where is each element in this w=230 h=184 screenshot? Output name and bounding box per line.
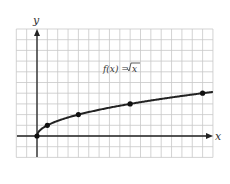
y-axis-label: y xyxy=(32,14,40,27)
data-point xyxy=(45,123,50,128)
data-point xyxy=(200,91,205,96)
data-point xyxy=(128,101,133,106)
sqrt-curve xyxy=(37,92,213,136)
function-radicand: x xyxy=(132,64,137,74)
function-label: f(x) = x xyxy=(102,63,140,74)
x-axis-label: x xyxy=(215,130,222,143)
function-graph: x y f(x) = x xyxy=(0,0,230,184)
function-name: f(x) = xyxy=(102,64,129,74)
data-point xyxy=(76,112,81,117)
y-axis-arrow-icon xyxy=(34,29,40,36)
grid-lines xyxy=(16,29,213,157)
data-point xyxy=(34,133,39,138)
x-axis-arrow-icon xyxy=(206,133,213,139)
